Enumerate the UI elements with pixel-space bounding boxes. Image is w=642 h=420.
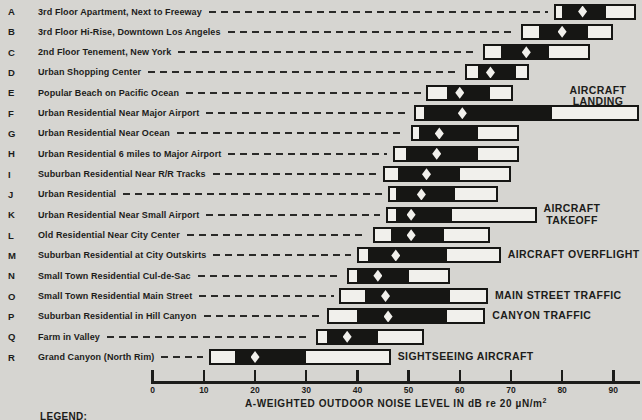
row-letter: C [0,47,38,58]
chart-row-d: DUrban Shopping Center [0,62,642,82]
chart-row-r: RGrand Canyon (North Rim)SIGHTSEEING AIR… [0,347,642,367]
axis-tick-label: 0 [150,385,155,395]
axis-tick-label: 90 [609,385,618,395]
axis-tick [407,370,410,383]
row-label: Urban Residential Near Ocean [38,128,170,138]
legend-label: LEGEND: [40,411,87,420]
row-letter: Q [0,331,38,342]
annotation-line: LANDING [570,96,627,108]
range-bar [386,207,537,223]
core-range-segment [368,248,447,262]
axis-tick [561,370,564,383]
range-bar [483,44,590,60]
row-letter: B [0,26,38,37]
row-label: Suburban Residential in Hill Canyon [38,311,197,321]
row-label: Farm in Valley [38,332,100,342]
row-letter: O [0,291,38,302]
axis-tick [305,370,308,383]
range-bar [316,329,423,345]
range-bar [388,186,498,202]
row-letter: E [0,87,38,98]
leader-dashes [178,51,476,53]
range-bar [426,85,513,101]
row-letter: K [0,209,38,220]
axis-tick [151,370,154,383]
chart-row-e: EPopular Beach on Pacific Ocean [0,83,642,103]
row-letter: R [0,352,38,363]
leader-dashes [187,234,367,236]
chart-row-p: PSuburban Residential in Hill CanyonCANY… [0,306,642,326]
leader-dashes [228,31,516,33]
range-bar [327,308,486,324]
chart-row-a: A3rd Floor Apartment, Next to Freeway [0,2,642,22]
axis-tick [510,370,513,383]
chart-row-c: C2nd Floor Tenement, New York [0,42,642,62]
core-range-segment [365,289,449,303]
leader-dashes [213,173,377,175]
range-bar [339,288,487,304]
noise-level-chart: A3rd Floor Apartment, Next to FreewayB3r… [0,0,642,420]
leader-dashes [206,112,407,114]
annotation-main-street-traffic: MAIN STREET TRAFFIC [495,290,622,302]
core-range-segment [419,126,478,140]
annotation-line: AIRCRAFT [570,85,627,97]
row-letter: L [0,230,38,241]
chart-row-g: GUrban Residential Near Ocean [0,123,642,143]
axis-tick-label: 80 [557,385,566,395]
axis-tick [203,370,206,383]
core-range-segment [396,208,452,222]
chart-row-m: MSuburban Residential at City OutskirtsA… [0,245,642,265]
leader-dashes [107,336,311,338]
leader-dashes [204,315,321,317]
chart-row-n: NSmall Town Residential Cul-de-Sac [0,266,642,286]
row-letter: D [0,67,38,78]
leader-dashes [199,295,333,297]
row-label: Urban Shopping Center [38,67,141,77]
core-range-segment [424,106,552,120]
row-label: 3rd Floor Hi-Rise, Downtown Los Angeles [38,27,221,37]
leader-dashes [186,92,420,94]
row-label: Urban Residential Near Small Airport [38,210,199,220]
range-bar [521,24,613,40]
row-label: Old Residential Near City Center [38,230,180,240]
row-letter: N [0,270,38,281]
chart-row-l: LOld Residential Near City Center [0,225,642,245]
chart-row-h: HUrban Residential 6 miles to Major Airp… [0,144,642,164]
x-axis-title: A-WEIGHTED OUTDOOR NOISE LEVEL IN dB re … [245,397,547,409]
range-bar [357,247,500,263]
row-label: 2nd Floor Tenement, New York [38,47,171,57]
annotation-aircraft-overflight: AIRCRAFT OVERFLIGHT [508,250,640,262]
row-label: Suburban Residential at City Outskirts [38,250,206,260]
chart-row-i: ISuburban Residential Near R/R Tracks [0,164,642,184]
core-range-segment [406,147,478,161]
range-bar [465,64,529,80]
range-bar [209,349,391,365]
row-letter: G [0,128,38,139]
core-range-segment [327,330,378,344]
range-bar [383,166,511,182]
range-bar [393,146,518,162]
leader-dashes [148,71,459,73]
chart-row-b: B3rd Floor Hi-Rise, Downtown Los Angeles [0,22,642,42]
axis-tick [459,370,462,383]
row-letter: M [0,250,38,261]
annotation-line: MAIN STREET TRAFFIC [495,290,622,302]
range-bar [411,125,518,141]
range-bar [347,268,449,284]
leader-dashes [161,356,203,358]
row-letter: A [0,6,38,17]
annotation-sightseeing-aircraft: SIGHTSEEING AIRCRAFT [398,351,534,363]
leader-dashes [198,275,342,277]
annotation-line: AIRCRAFT [544,203,601,215]
leader-dashes [209,11,549,13]
leader-dashes [206,214,379,216]
axis-tick [254,370,257,383]
x-axis-title-superscript: 2 [543,397,548,404]
range-bar [554,4,636,20]
axis-tick-label: 70 [506,385,515,395]
core-range-segment [391,228,445,242]
axis-tick-label: 60 [455,385,464,395]
leader-dashes [177,132,405,134]
axis-tick-label: 20 [250,385,259,395]
core-range-segment [357,309,447,323]
